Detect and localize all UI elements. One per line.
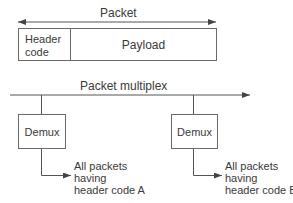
demux-a-output-arrow	[42, 148, 72, 176]
packet-header-box: Header code	[18, 28, 71, 61]
packet-payload-box: Payload	[70, 28, 217, 61]
demux-b-label: Demux	[177, 126, 212, 138]
demux-b-box: Demux	[171, 114, 218, 149]
demux-a-output-line3: header code A	[74, 184, 145, 196]
demux-b-output-line1: All packets	[225, 160, 278, 172]
payload-label: Payload	[122, 38, 165, 52]
demux-a-output-line2: having	[74, 172, 106, 184]
header-code-line2: code	[25, 46, 49, 58]
demux-a-box: Demux	[18, 114, 66, 149]
multiplex-title: Packet multiplex	[80, 80, 167, 92]
demux-b-output-arrow	[194, 148, 223, 176]
demux-a-output-line1: All packets	[74, 160, 127, 172]
demux-b-output-line2: having	[225, 172, 257, 184]
header-code-line1: Header	[25, 33, 61, 45]
demux-a-label: Demux	[25, 126, 60, 138]
packet-title: Packet	[100, 7, 137, 19]
demux-b-output-line3: header code B	[225, 184, 293, 196]
